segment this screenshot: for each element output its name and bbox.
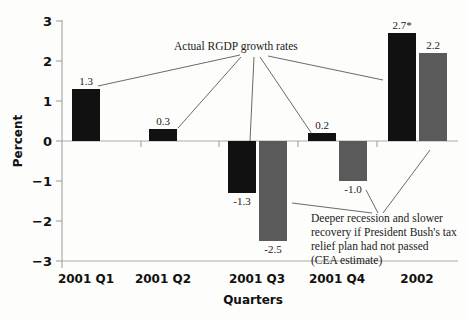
bar (72, 89, 100, 141)
y-tick-label: 1 (43, 94, 52, 109)
bar (388, 33, 416, 141)
category-label: 2002 (400, 272, 433, 286)
bar (419, 53, 447, 141)
bar (308, 133, 336, 141)
bar-value-label: -2.5 (264, 243, 282, 255)
y-tick-label: −1 (32, 174, 52, 189)
x-axis-label: Quarters (223, 293, 283, 307)
bar-value-label: -1.3 (233, 195, 251, 207)
category-label: 2001 Q4 (309, 272, 365, 286)
estimate-annotation-line4: (CEA estimate) (311, 254, 382, 267)
y-tick-label: −3 (32, 254, 52, 269)
bar (228, 141, 256, 193)
bar-value-label: 1.3 (79, 75, 93, 87)
bar (339, 141, 367, 181)
actual-callout-lines (98, 55, 383, 141)
estimate-annotation-line3: relief plan had not passed (311, 240, 429, 253)
estimate-annotation-line2: recovery if President Bush's tax (311, 226, 457, 239)
bar (149, 129, 177, 141)
bar-value-label: 0.2 (315, 119, 329, 131)
bar-value-label: -1.0 (344, 183, 362, 195)
estimate-annotation-line1: Deeper recession and slower (311, 212, 443, 225)
actual-annotation: Actual RGDP growth rates (174, 40, 298, 53)
y-tick-label: −2 (32, 214, 52, 229)
y-tick-label: 0 (43, 134, 52, 149)
chart-svg: 3210−1−2−3 1.30.3-1.3-2.50.2-1.02.7*2.2 … (0, 0, 469, 319)
category-label: 2001 Q3 (229, 272, 285, 286)
category-labels: 2001 Q12001 Q22001 Q32001 Q42002 (58, 272, 434, 286)
category-label: 2001 Q1 (58, 272, 114, 286)
y-axis-label: Percent (11, 115, 25, 168)
chart: 3210−1−2−3 1.30.3-1.3-2.50.2-1.02.7*2.2 … (0, 0, 469, 319)
y-ticks: 3210−1−2−3 (32, 14, 62, 269)
bar-value-label: 2.7* (392, 19, 411, 31)
category-label: 2001 Q2 (135, 272, 191, 286)
y-tick-label: 2 (43, 54, 52, 69)
bar (259, 141, 287, 241)
bar-value-label: 2.2 (426, 39, 440, 51)
bar-value-label: 0.3 (156, 115, 170, 127)
y-tick-label: 3 (43, 14, 52, 29)
bars (72, 33, 447, 241)
